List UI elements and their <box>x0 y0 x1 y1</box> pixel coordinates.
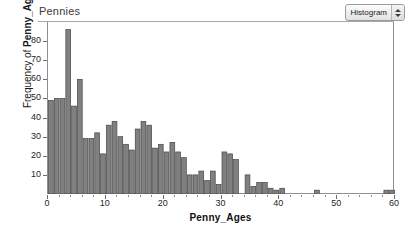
histogram-bar <box>77 79 82 194</box>
x-axis-tick-label: 50 <box>324 198 348 208</box>
x-axis-minor-tick-mark <box>232 195 233 197</box>
x-axis-minor-tick-mark <box>290 195 291 197</box>
x-axis-tick-mark <box>163 195 164 199</box>
histogram-bar <box>210 171 215 194</box>
x-axis-tick-mark <box>278 195 279 199</box>
x-axis-minor-tick-mark <box>325 195 326 197</box>
chart-plot-frame <box>47 22 394 194</box>
y-axis-tick-mark <box>43 156 47 157</box>
histogram-bar <box>101 154 106 194</box>
x-axis-minor-tick-mark <box>116 195 117 197</box>
histogram-bar <box>193 175 198 194</box>
x-axis-tick-label: 60 <box>382 198 406 208</box>
histogram-bar <box>245 175 250 194</box>
histogram-bar <box>124 144 129 194</box>
plot-type-dropdown[interactable]: Histogram <box>345 4 405 21</box>
histogram-bar <box>60 98 65 194</box>
x-axis-tick-label: 0 <box>35 198 59 208</box>
histogram-bar <box>153 148 158 194</box>
histogram-bar <box>315 190 320 194</box>
x-axis-minor-tick-mark <box>348 195 349 197</box>
histogram-bar <box>164 152 169 194</box>
x-axis-minor-tick-mark <box>313 195 314 197</box>
histogram-bar <box>199 171 204 194</box>
x-axis-minor-tick-mark <box>255 195 256 197</box>
x-axis-tick-label: 30 <box>209 198 233 208</box>
plot-area <box>48 22 393 193</box>
y-axis-label-prefix: Frequency of <box>22 47 33 108</box>
histogram-bar <box>89 139 94 194</box>
x-axis-minor-tick-mark <box>70 195 71 197</box>
y-axis-tick-label: 30 <box>19 131 41 141</box>
x-axis-minor-tick-mark <box>174 195 175 197</box>
x-axis-minor-tick-mark <box>197 195 198 197</box>
x-axis-minor-tick-mark <box>128 195 129 197</box>
x-axis-minor-tick-mark <box>301 195 302 197</box>
histogram-bar <box>158 144 163 194</box>
x-axis-minor-tick-mark <box>186 195 187 197</box>
triangle-up-icon <box>395 9 401 12</box>
histogram-bar <box>176 152 181 194</box>
x-axis-minor-tick-mark <box>140 195 141 197</box>
histogram-bar <box>83 139 88 194</box>
y-axis-tick-mark <box>43 118 47 119</box>
histogram-bar <box>147 125 152 194</box>
histogram-bar <box>268 188 273 194</box>
histogram-bar <box>280 188 285 194</box>
histogram-window: Pennies Histogram 1020304050607080 01020… <box>0 0 411 234</box>
x-axis-tick-mark <box>336 195 337 199</box>
stepper-arrows[interactable] <box>391 5 404 20</box>
histogram-bar <box>222 152 227 194</box>
x-axis-tick-mark <box>221 195 222 199</box>
page-title: Pennies <box>39 5 80 17</box>
histogram-bar <box>54 98 59 194</box>
histogram-bar <box>390 190 395 194</box>
x-axis-minor-tick-mark <box>244 195 245 197</box>
x-axis-tick-mark <box>105 195 106 199</box>
histogram-bars <box>48 22 395 194</box>
histogram-bar <box>129 150 134 194</box>
x-axis-minor-tick-mark <box>209 195 210 197</box>
y-axis-tick-mark <box>43 60 47 61</box>
y-axis-tick-mark <box>43 175 47 176</box>
y-axis-tick-label: 10 <box>19 169 41 179</box>
window-titlebar: Pennies Histogram <box>0 0 411 24</box>
histogram-bar <box>170 142 175 194</box>
histogram-bar <box>251 186 256 194</box>
histogram-bar <box>228 154 233 194</box>
x-axis-minor-tick-mark <box>382 195 383 197</box>
histogram-bar <box>205 181 210 194</box>
triangle-down-icon <box>395 14 401 17</box>
x-axis-tick-mark <box>47 195 48 199</box>
x-axis-label: Penny_Ages <box>47 212 394 223</box>
histogram-bar <box>49 100 54 194</box>
histogram-bar <box>216 184 221 194</box>
plot-type-dropdown-label: Histogram <box>346 5 391 20</box>
histogram-bar <box>118 137 123 194</box>
histogram-bar <box>187 175 192 194</box>
x-axis-minor-tick-mark <box>371 195 372 197</box>
y-axis-tick-mark <box>43 79 47 80</box>
x-axis-minor-tick-mark <box>82 195 83 197</box>
histogram-bar <box>135 129 140 194</box>
y-axis-tick-mark <box>43 41 47 42</box>
y-axis-tick-mark <box>43 98 47 99</box>
x-axis-minor-tick-mark <box>59 195 60 197</box>
histogram-bar <box>262 183 267 194</box>
x-axis-minor-tick-mark <box>267 195 268 197</box>
x-axis-tick-label: 20 <box>151 198 175 208</box>
x-axis-minor-tick-mark <box>93 195 94 197</box>
histogram-bar <box>384 190 389 194</box>
histogram-bar <box>72 106 77 194</box>
histogram-bar <box>112 121 117 194</box>
x-axis-tick-label: 40 <box>266 198 290 208</box>
histogram-bar <box>234 160 239 194</box>
x-axis-tick-label: 10 <box>93 198 117 208</box>
histogram-bar <box>95 133 100 194</box>
y-axis-tick-label: 20 <box>19 150 41 160</box>
y-axis-tick-mark <box>43 137 47 138</box>
x-axis-tick-mark <box>394 195 395 199</box>
x-axis-minor-tick-mark <box>359 195 360 197</box>
histogram-bar <box>182 158 187 194</box>
histogram-bar <box>141 121 146 194</box>
